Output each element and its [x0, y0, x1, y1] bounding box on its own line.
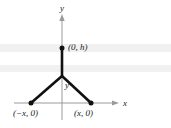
right-point-dot: [89, 101, 94, 106]
left-point-dot: [29, 101, 34, 106]
left-point-label: (−x, 0): [13, 109, 38, 118]
apex-point-label: (0, h): [68, 43, 88, 52]
y-axis-arrowhead: [59, 14, 64, 21]
x-axis-arrowhead: [112, 100, 119, 105]
y-axis-label: y: [60, 4, 64, 13]
x-axis-label: x: [123, 99, 127, 108]
math-figure: y x (0, h) (−x, 0) (x, 0) y: [0, 0, 171, 128]
vertical-segment-label: y: [65, 81, 69, 90]
right-point-label: (x, 0): [74, 109, 93, 118]
left-branch-segment: [31, 76, 62, 103]
apex-point-dot: [60, 46, 65, 51]
